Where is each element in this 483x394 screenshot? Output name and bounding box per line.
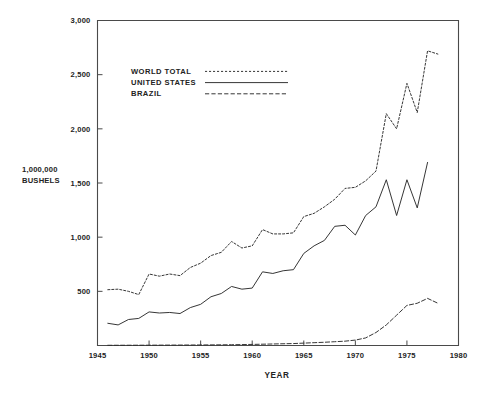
legend-label-world-total: WORLD TOTAL [131, 67, 191, 76]
x-tick-label: 1975 [398, 351, 416, 360]
x-tick-label: 1980 [450, 351, 468, 360]
y-tick-label: 1,500 [70, 179, 90, 188]
y-axis-title-line2: BUSHELS [22, 176, 60, 185]
x-tick-label: 1960 [243, 351, 261, 360]
legend-label-united-states: UNITED STATES [131, 78, 196, 87]
y-tick-label: 1,000 [70, 233, 90, 242]
y-tick-label: 3,000 [70, 16, 90, 25]
chart-background [0, 0, 483, 394]
y-tick-label: 2,000 [70, 125, 90, 134]
x-tick-label: 1950 [140, 351, 158, 360]
y-tick-label: 2,500 [70, 70, 90, 79]
y-axis-title-line1: 1,000,000 [22, 165, 58, 174]
x-tick-label: 1955 [192, 351, 210, 360]
soybean-production-line-chart: 5001,0001,5002,0002,5003,000 19451950195… [0, 0, 483, 394]
x-tick-label: 1965 [295, 351, 313, 360]
x-tick-label: 1970 [347, 351, 365, 360]
chart-container: 5001,0001,5002,0002,5003,000 19451950195… [0, 0, 483, 394]
x-axis-title: YEAR [264, 371, 289, 380]
y-tick-label: 500 [77, 287, 90, 296]
legend-label-brazil: BRAZIL [131, 89, 162, 98]
x-tick-label: 1945 [89, 351, 107, 360]
